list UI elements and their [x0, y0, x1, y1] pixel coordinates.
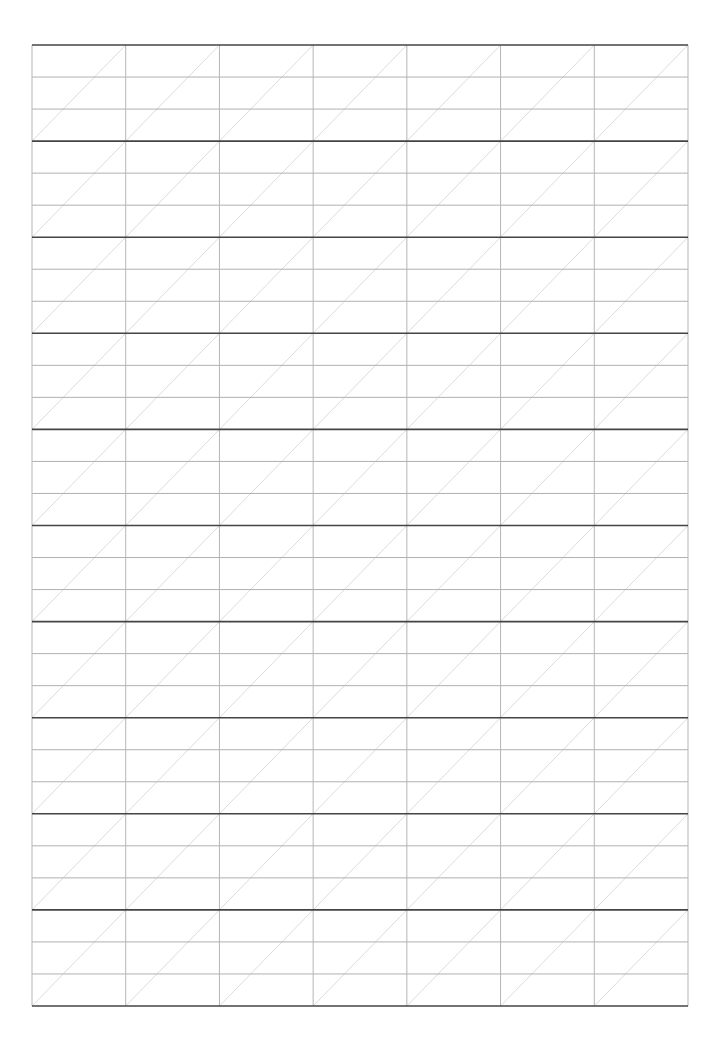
diagonal-guide-line	[594, 333, 688, 429]
diagonal-guide-line	[32, 429, 126, 525]
diagonal-guide-line	[407, 141, 501, 237]
diagonal-guide-line	[219, 45, 313, 141]
diagonal-guide-line	[501, 526, 595, 622]
diagonal-guide-line	[32, 910, 126, 1006]
diagonal-guide-line	[594, 910, 688, 1006]
diagonal-guide-line	[407, 910, 501, 1006]
diagonal-guide-line	[594, 718, 688, 814]
diagonal-guide-line	[219, 622, 313, 718]
diagonal-guide-line	[32, 814, 126, 910]
diagonal-guide-line	[501, 333, 595, 429]
diagonal-guide-line	[594, 141, 688, 237]
diagonal-guide-line	[126, 910, 220, 1006]
diagonal-guide-line	[313, 45, 407, 141]
diagonal-guide-line	[32, 333, 126, 429]
diagonal-guide-line	[501, 237, 595, 333]
diagonal-guide-line	[219, 429, 313, 525]
diagonal-guide-line	[313, 429, 407, 525]
diagonal-guide-line	[407, 814, 501, 910]
diagonal-guide-line	[219, 333, 313, 429]
diagonal-guide-line	[501, 814, 595, 910]
diagonal-guide-line	[313, 814, 407, 910]
diagonal-guide-line	[313, 718, 407, 814]
diagonal-guide-line	[501, 718, 595, 814]
diagonal-guide-line	[32, 237, 126, 333]
diagonal-guide-line	[126, 814, 220, 910]
diagonal-guide-line	[594, 526, 688, 622]
diagonal-guide-line	[126, 45, 220, 141]
diagonal-guide-line	[594, 814, 688, 910]
diagonal-guide-line	[501, 141, 595, 237]
diagonal-guide-line	[126, 526, 220, 622]
diagonal-guide-line	[501, 910, 595, 1006]
diagonal-guide-line	[313, 141, 407, 237]
diagonal-guide-line	[219, 910, 313, 1006]
diagonal-guide-line	[32, 45, 126, 141]
diagonal-guide-line	[219, 814, 313, 910]
diagonal-guide-line	[407, 622, 501, 718]
diagonal-guide-line	[594, 45, 688, 141]
diagonal-guide-line	[32, 141, 126, 237]
diagonal-guide-line	[219, 718, 313, 814]
diagonal-guide-line	[32, 526, 126, 622]
diagonal-guide-line	[407, 526, 501, 622]
diagonal-guide-line	[594, 237, 688, 333]
diagonal-guide-line	[313, 526, 407, 622]
diagonal-guide-line	[32, 718, 126, 814]
diagonal-guide-line	[219, 237, 313, 333]
diagonal-guide-line	[126, 429, 220, 525]
diagonal-guide-line	[313, 237, 407, 333]
diagonal-guide-line	[501, 45, 595, 141]
diagonal-guide-line	[407, 429, 501, 525]
diagonal-guide-line	[126, 237, 220, 333]
diagonal-guide-line	[407, 45, 501, 141]
diagonal-guide-line	[126, 333, 220, 429]
diagonal-guide-line	[32, 622, 126, 718]
diagonal-guide-line	[313, 910, 407, 1006]
practice-grid	[0, 0, 723, 1042]
diagonal-guide-line	[126, 622, 220, 718]
diagonal-guide-line	[219, 141, 313, 237]
diagonal-guide-line	[313, 333, 407, 429]
diagonal-guide-line	[407, 718, 501, 814]
diagonal-guide-line	[126, 718, 220, 814]
diagonal-guide-line	[313, 622, 407, 718]
diagonal-guide-line	[407, 237, 501, 333]
diagonal-guide-line	[594, 429, 688, 525]
diagonal-guide-line	[219, 526, 313, 622]
diagonal-guide-line	[501, 429, 595, 525]
diagonal-guide-line	[407, 333, 501, 429]
diagonal-guide-line	[126, 141, 220, 237]
diagonal-guide-line	[501, 622, 595, 718]
diagonal-guide-line	[594, 622, 688, 718]
